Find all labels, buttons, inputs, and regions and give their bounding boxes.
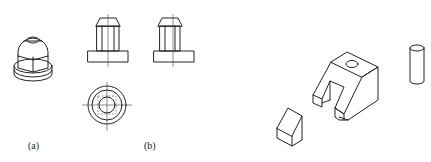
part-a-isometric [14,37,52,81]
technical-drawing-figure: (a) (b) [0,0,431,162]
part-b-front-view [88,14,128,67]
slotted-block-isometric [313,52,378,120]
drawing-canvas [0,0,431,162]
caption-a: (a) [28,141,39,151]
part-b-side-view [154,14,194,67]
part-b-top-view [82,82,132,131]
caption-b: (b) [144,141,156,151]
cylinder-pin-isometric [410,45,424,84]
wedge-isometric [277,108,302,146]
